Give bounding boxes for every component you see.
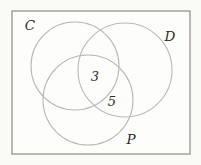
set-label-d: D [164, 28, 176, 44]
region-value-triple-intersection: 3 [91, 69, 99, 84]
venn-diagram-canvas: C D P 3 5 [0, 0, 201, 165]
set-label-p: P [125, 131, 136, 147]
universe-frame [12, 11, 190, 154]
region-value-d-p-intersection: 5 [108, 94, 116, 109]
venn-diagram-figure: C D P 3 5 [0, 0, 201, 165]
set-label-c: C [25, 17, 36, 33]
